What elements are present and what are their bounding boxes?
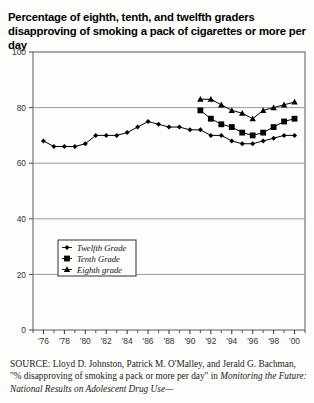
x-tick-label: '00 [289,336,300,344]
square-marker [271,124,277,130]
diamond-marker [219,133,224,138]
page-top-margin [0,0,314,4]
y-tick-label: 60 [17,158,27,168]
diamond-marker [41,138,46,143]
line-chart: 020406080100'76'78'80'82'84'86'88'90'92'… [0,44,314,344]
diamond-marker [104,133,109,138]
square-marker [208,116,214,122]
square-marker [281,119,287,125]
diamond-marker [167,125,172,130]
diamond-marker [187,127,192,132]
diamond-marker [177,125,182,130]
series-line-square [200,110,294,135]
square-marker [229,124,235,130]
diamond-marker [271,136,276,141]
x-tick-label: '96 [247,336,258,344]
diamond-marker [72,144,77,149]
diamond-marker [156,122,161,127]
square-marker [218,121,224,127]
x-tick-label: '76 [38,336,49,344]
x-tick-label: '94 [226,336,237,344]
chart-legend: Twelfth GradeTenth GradeEighth grade [58,240,136,276]
diamond-marker [292,133,297,138]
diamond-marker [208,133,213,138]
y-tick-label: 20 [17,270,27,280]
diamond-marker [229,138,234,143]
y-tick-label: 40 [17,214,27,224]
source-label: SOURCE: [10,358,51,369]
diamond-marker [146,119,151,124]
x-tick-label: '92 [205,336,216,344]
x-tick-label: '80 [80,336,91,344]
y-tick-label: 100 [12,47,26,57]
legend-label: Tenth Grade [77,254,120,264]
diamond-marker [282,133,287,138]
source-note: SOURCE: Lloyd D. Johnston, Patrick M. O'… [10,358,308,395]
diamond-marker [125,130,130,135]
series-line-triangle [200,99,294,118]
plot-frame [33,52,305,330]
x-tick-label: '78 [59,336,70,344]
x-tick-label: '84 [122,336,133,344]
y-tick-label: 80 [17,103,27,113]
triangle-marker [291,99,297,105]
triangle-marker [218,102,224,108]
x-tick-label: '90 [184,336,195,344]
x-tick-label: '88 [164,336,175,344]
legend-label: Twelfth Grade [77,243,126,253]
diamond-marker [51,144,56,149]
diamond-marker [240,141,245,146]
square-marker [239,130,245,136]
x-tick-label: '82 [101,336,112,344]
square-marker [260,130,266,136]
diamond-marker [114,133,119,138]
diamond-marker [135,125,140,130]
x-tick-label: '98 [268,336,279,344]
y-tick-label: 0 [21,325,26,335]
square-marker [197,107,203,113]
x-tick-label: '86 [143,336,154,344]
chart-plot-area: 020406080100'76'78'80'82'84'86'88'90'92'… [0,44,314,344]
diamond-marker [198,127,203,132]
legend-label: Eighth grade [76,265,122,275]
square-marker [292,116,298,122]
diamond-marker [250,141,255,146]
square-marker [250,133,256,139]
diamond-marker [261,138,266,143]
diamond-marker [62,144,67,149]
